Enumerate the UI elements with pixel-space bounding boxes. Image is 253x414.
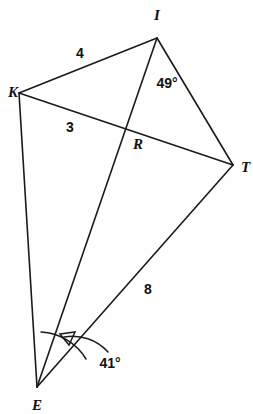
segment-E-T (37, 165, 233, 387)
segment-K-E (19, 93, 37, 387)
segment-K-I (19, 38, 157, 93)
vertex-label-E: E (31, 397, 42, 413)
geometry-canvas: I K T R E 4 3 8 49° 41° (0, 0, 253, 414)
length-label-KR: 3 (66, 119, 74, 135)
vertex-label-R: R (132, 136, 143, 152)
length-label-ET: 8 (144, 281, 152, 297)
geometry-figure: I K T R E 4 3 8 49° 41° (0, 0, 253, 414)
length-label-KI: 4 (76, 45, 84, 61)
angle-label-I: 49° (156, 75, 177, 91)
vertex-label-I: I (153, 7, 161, 23)
vertex-label-K: K (7, 84, 19, 100)
segment-I-T (157, 38, 233, 165)
vertex-label-T: T (241, 159, 251, 175)
angle-label-E: 41° (99, 355, 120, 371)
